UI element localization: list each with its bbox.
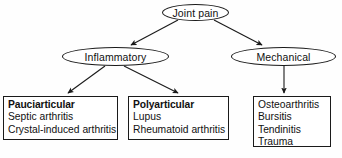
node-mechanical-label: Mechanical — [256, 51, 310, 63]
box-mechanical-causes: Osteoarthritis Bursitis Tendinitis Traum… — [253, 96, 331, 147]
node-joint-pain: Joint pain — [162, 4, 229, 21]
node-inflammatory-label: Inflammatory — [85, 51, 147, 63]
box-polyarticular-item-2: Rheumatoid arthritis — [133, 124, 225, 136]
box-mechanical-causes-item-2: Bursitis — [258, 111, 327, 123]
box-mechanical-causes-item-1: Osteoarthritis — [258, 99, 327, 111]
box-pauciarticular-heading: Pauciarticular — [8, 99, 114, 111]
box-polyarticular-heading: Polyarticular — [133, 99, 225, 111]
connector-jointpain-to-mechanical — [214, 20, 262, 45]
connector-jointpain-to-inflammatory — [131, 20, 178, 45]
box-mechanical-causes-item-4: Trauma — [258, 136, 327, 148]
box-pauciarticular: Pauciarticular Septic arthritis Crystal-… — [3, 96, 118, 140]
node-inflammatory: Inflammatory — [62, 47, 169, 66]
box-pauciarticular-item-1: Septic arthritis — [8, 111, 114, 123]
connector-inflammatory-to-polyarticular — [124, 66, 178, 93]
box-polyarticular-item-1: Lupus — [133, 111, 225, 123]
node-mechanical: Mechanical — [231, 47, 336, 66]
box-polyarticular: Polyarticular Lupus Rheumatoid arthritis — [128, 96, 229, 140]
joint-pain-flowchart: Joint pain Inflammatory Mechanical Pauci… — [0, 0, 342, 158]
connector-inflammatory-to-pauciarticular — [68, 66, 105, 93]
node-joint-pain-label: Joint pain — [173, 7, 219, 19]
box-mechanical-causes-item-3: Tendinitis — [258, 124, 327, 136]
box-pauciarticular-item-2: Crystal-induced arthritis — [8, 124, 114, 136]
